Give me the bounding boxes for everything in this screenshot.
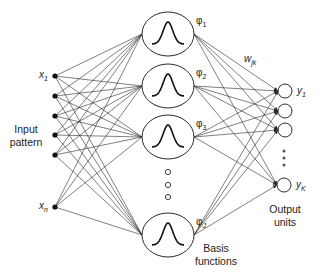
input-node [52, 93, 57, 98]
input-node [52, 132, 57, 137]
basis-label: φ2 [196, 67, 206, 80]
basis-output-edge [194, 86, 278, 111]
basis-output-edge [194, 34, 277, 185]
ellipsis-dot-icon [165, 194, 170, 199]
input-group-label-line1: Input [14, 123, 37, 135]
ellipsis-dot-icon [165, 182, 170, 187]
input-basis-edge [55, 34, 142, 207]
input-basis-edge [55, 86, 142, 116]
basis-to-output-connections [194, 34, 278, 235]
basis-output-edge [194, 34, 278, 111]
network-svg: φ1φ2φ3φJ x1xn y1yK Input pattern Basis f… [0, 0, 321, 277]
basis-group-label-line2: functions [195, 255, 237, 267]
input-node [52, 152, 57, 157]
output-node [278, 104, 292, 118]
output-group-label-line2: units [274, 216, 296, 228]
basis-label: φJ [196, 216, 206, 229]
basis-output-edge [194, 137, 277, 185]
basis-output-edge [194, 34, 278, 130]
basis-output-edge [194, 111, 278, 137]
input-basis-edge [55, 135, 142, 235]
basis-ellipse [142, 213, 194, 257]
weight-label: wjk [244, 53, 257, 67]
input-node [52, 113, 57, 118]
output-group-label-line1: Output [269, 203, 301, 215]
ellipsis-dot-icon [283, 157, 286, 160]
input-label: x1 [38, 69, 48, 82]
basis-ellipse [142, 12, 194, 56]
input-to-basis-connections [55, 34, 142, 235]
ellipsis-dot-icon [165, 169, 170, 174]
input-node [52, 204, 57, 209]
input-basis-edge [55, 86, 142, 207]
basis-output-edge [194, 86, 277, 185]
output-node [278, 84, 292, 98]
input-basis-edge [55, 155, 142, 235]
basis-output-edge [194, 91, 278, 235]
output-node [277, 178, 291, 192]
basis-ellipse [142, 64, 194, 108]
basis-output-edge [194, 86, 278, 130]
output-node [278, 123, 292, 137]
basis-output-edge [194, 185, 277, 235]
basis-output-edge [194, 111, 278, 235]
arrowhead-icon [273, 185, 277, 189]
input-basis-edge [55, 34, 142, 76]
basis-node: φ1 [142, 12, 206, 56]
input-basis-edge [55, 96, 142, 235]
ellipsis-dot-icon [283, 164, 286, 167]
basis-output-edge [194, 86, 278, 91]
basis-output-edge [194, 130, 278, 235]
input-basis-edge [55, 34, 142, 96]
output-label: yK [295, 179, 306, 192]
basis-label: φ1 [196, 15, 206, 28]
basis-group-label-line1: Basis [203, 242, 229, 254]
rbf-network-diagram: φ1φ2φ3φJ x1xn y1yK Input pattern Basis f… [0, 0, 321, 277]
input-group-label-line2: pattern [10, 136, 43, 148]
input-node [52, 73, 57, 78]
input-label: xn [38, 200, 48, 213]
basis-function-layer: φ1φ2φ3φJ [142, 12, 206, 257]
basis-node: φJ [142, 213, 206, 257]
ellipsis-dot-icon [283, 150, 286, 153]
output-label: y1 [296, 85, 306, 98]
input-basis-edge [55, 137, 142, 207]
output-layer: y1yK [277, 84, 306, 192]
basis-ellipse [142, 115, 194, 159]
basis-label: φ3 [196, 118, 206, 131]
